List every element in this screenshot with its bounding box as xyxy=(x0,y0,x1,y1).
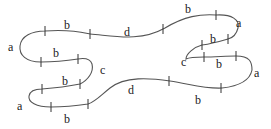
segment-label: a xyxy=(8,40,14,54)
segment-ticks xyxy=(41,10,236,112)
segment-label: d xyxy=(128,83,134,97)
segment-labels: a b d b a b c b a b d b a b c b xyxy=(8,2,260,126)
segment-label: b xyxy=(185,2,191,16)
segment-label: a xyxy=(254,66,260,80)
segment-label: d xyxy=(124,25,130,39)
segment-label: b xyxy=(210,32,216,46)
segment-label: a xyxy=(236,16,242,30)
segment-label: c xyxy=(100,63,105,77)
segment-label: b xyxy=(64,112,70,126)
labeled-closed-curve-diagram: a b d b a b c b a b d b a b c b xyxy=(0,0,271,129)
segment-label: b xyxy=(53,46,59,60)
segment-label: b xyxy=(64,18,70,32)
segment-label: c xyxy=(181,55,186,69)
segment-label: b xyxy=(216,57,222,71)
segment-label: b xyxy=(195,93,201,107)
segment-label: b xyxy=(62,74,68,88)
segment-label: a xyxy=(17,99,23,113)
